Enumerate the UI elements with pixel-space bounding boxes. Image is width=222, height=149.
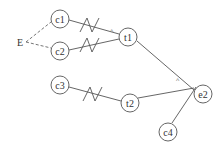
node-e2: e2 (194, 85, 212, 103)
source-label-e: E (17, 37, 23, 48)
junction-caret-icon: ^ (110, 28, 114, 35)
svg-text:t2: t2 (126, 98, 134, 109)
wave-marker-icon (80, 18, 99, 32)
svg-text:c1: c1 (55, 14, 64, 25)
svg-text:t1: t1 (124, 32, 132, 43)
node-c1: c1 (51, 10, 69, 28)
edge-t2-e2 (138, 88, 194, 98)
node-c3: c3 (51, 76, 69, 94)
junction-caret-icon: ^ (176, 77, 180, 84)
edge-e-c2 (26, 42, 51, 48)
edge-e-c1 (26, 22, 51, 42)
edge-t1-e2 (137, 41, 194, 90)
node-c2: c2 (51, 42, 69, 60)
svg-text:c2: c2 (55, 46, 64, 57)
node-c4: c4 (159, 123, 177, 141)
edge-c4-e2 (172, 87, 196, 123)
edge-c3-t2 (69, 87, 121, 101)
svg-text:c4: c4 (163, 127, 172, 138)
diagram-canvas: E ^ ^ c1 c2 t1 e2 c3 t2 (0, 0, 222, 149)
node-t1: t1 (119, 28, 137, 46)
svg-text:e2: e2 (198, 89, 207, 100)
wave-marker-icon (80, 38, 99, 52)
wave-marker-icon (83, 87, 102, 101)
svg-text:c3: c3 (55, 80, 64, 91)
node-t2: t2 (121, 94, 139, 112)
